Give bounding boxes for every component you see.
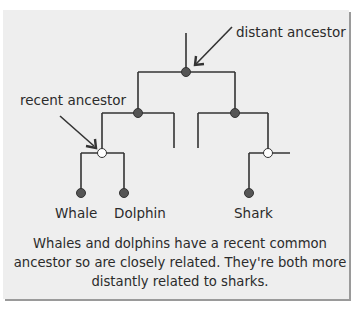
- distant-ancestor-node: [182, 68, 191, 77]
- annotation-arrows: [60, 27, 232, 148]
- shark-ancestor-node: [264, 149, 273, 158]
- tree-branches: [81, 33, 290, 193]
- leaf-label-whale: Whale: [55, 205, 97, 221]
- whale-node: [77, 189, 86, 198]
- recent-ancestor-node: [98, 149, 107, 158]
- distant-ancestor-label: distant ancestor: [236, 24, 346, 40]
- ancestor-node-right: [231, 109, 240, 118]
- diagram-caption: Whales and dolphins have a recent common…: [10, 234, 350, 291]
- shark-node: [245, 189, 254, 198]
- dolphin-node: [120, 189, 129, 198]
- recent-ancestor-label: recent ancestor: [20, 92, 126, 108]
- leaf-label-shark: Shark: [234, 205, 273, 221]
- leaf-label-dolphin: Dolphin: [114, 205, 166, 221]
- ancestor-node-left: [134, 109, 143, 118]
